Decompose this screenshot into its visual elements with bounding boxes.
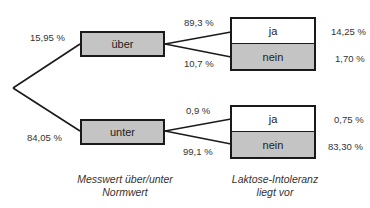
outcome-ueber-nein-label: nein bbox=[263, 51, 284, 63]
outcome-box-ueber: ja nein bbox=[230, 17, 316, 71]
prob-unter: 84,05 % bbox=[27, 132, 62, 143]
branch-root-ueber bbox=[13, 44, 80, 88]
outcome-ueber-ja-label: ja bbox=[269, 25, 278, 37]
joint-unter-nein: 83,30 % bbox=[328, 141, 363, 152]
node-ueber: über bbox=[80, 31, 165, 57]
branch-ueber-nein bbox=[165, 44, 231, 57]
outcome-ueber-nein: nein bbox=[232, 44, 314, 69]
cond-unter-nein: 99,1 % bbox=[183, 146, 213, 157]
caption-level1-line1: Messwert über/unter bbox=[60, 173, 190, 186]
caption-level1: Messwert über/unter Normwert bbox=[60, 173, 190, 199]
joint-ueber-ja: 14,25 % bbox=[331, 26, 366, 37]
outcome-unter-ja-label: ja bbox=[269, 113, 278, 125]
joint-ueber-nein: 1,70 % bbox=[335, 53, 365, 64]
outcome-unter-nein-label: nein bbox=[263, 139, 284, 151]
node-ueber-label: über bbox=[111, 38, 133, 50]
outcome-unter-ja: ja bbox=[232, 107, 314, 132]
caption-level1-line2: Normwert bbox=[60, 186, 190, 199]
node-unter: unter bbox=[80, 119, 165, 145]
cond-ueber-ja: 89,3 % bbox=[184, 17, 214, 28]
node-unter-label: unter bbox=[110, 126, 135, 138]
caption-level2-line2: liegt vor bbox=[215, 186, 335, 199]
caption-level2-line1: Laktose-Intoleranz bbox=[215, 173, 335, 186]
prob-ueber: 15,95 % bbox=[30, 32, 65, 43]
branch-unter-ja bbox=[165, 119, 231, 131]
branch-ueber-ja bbox=[165, 32, 231, 44]
cond-unter-ja: 0,9 % bbox=[186, 105, 210, 116]
cond-ueber-nein: 10,7 % bbox=[184, 58, 214, 69]
branch-unter-nein bbox=[165, 131, 231, 144]
outcome-ueber-ja: ja bbox=[232, 19, 314, 44]
branch-root-unter bbox=[13, 88, 80, 131]
outcome-unter-nein: nein bbox=[232, 132, 314, 157]
caption-level2: Laktose-Intoleranz liegt vor bbox=[215, 173, 335, 199]
joint-unter-ja: 0,75 % bbox=[334, 114, 364, 125]
outcome-box-unter: ja nein bbox=[230, 105, 316, 159]
